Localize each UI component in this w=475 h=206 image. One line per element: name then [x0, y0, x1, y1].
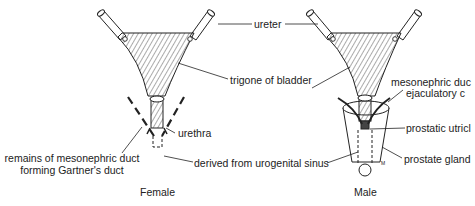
- label-prostatic-utricle: prostatic utricl: [406, 122, 471, 134]
- label-trigone-of-bladder: trigone of bladder: [230, 74, 312, 86]
- female-bladder: [96, 9, 252, 162]
- female-right-ureter: [190, 9, 216, 40]
- male-bladder: [285, 9, 423, 176]
- label-remains-of-mesonephric-duct: remains of mesonephric duct: [4, 152, 140, 164]
- male-right-ureter: [397, 9, 423, 40]
- label-urethra: urethra: [178, 127, 211, 139]
- male-trigone: [327, 33, 401, 96]
- label-derived-from-urogenital-sinus: derived from urogenital sinus: [194, 157, 329, 169]
- caption-male: Male: [354, 186, 377, 198]
- female-urethra: [147, 96, 167, 134]
- label-ureter: ureter: [254, 18, 281, 30]
- label-prostate-gland: prostate gland: [404, 153, 471, 165]
- female-left-mesonephric-remnant: [128, 97, 154, 136]
- label-ejaculatory-duct: ejaculatory c: [406, 87, 465, 99]
- label-gartners-duct: forming Gartner's duct: [4, 164, 140, 176]
- male-bulb: [359, 164, 371, 176]
- caption-female: Female: [140, 186, 175, 198]
- label-prostate-marker: M: [381, 157, 385, 169]
- embryology-diagram: ureter trigone of bladder urethra remain…: [0, 0, 475, 206]
- female-urogenital-sinus: [153, 136, 162, 147]
